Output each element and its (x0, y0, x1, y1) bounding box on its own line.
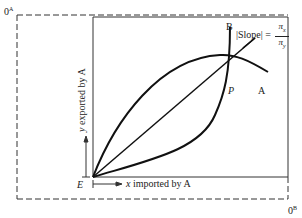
origin-B-label: 0B (288, 203, 297, 216)
slope-label: |Slope| = (236, 30, 271, 40)
slope-denominator: πy (278, 38, 285, 51)
offer-curve-A (93, 55, 268, 177)
y-axis-label: y exported by A (76, 68, 87, 132)
price-line (93, 38, 255, 177)
x-axis-label: x imported by A (126, 179, 191, 189)
slope-numerator: πx (278, 22, 285, 35)
curve-B-label: B (226, 22, 233, 32)
outer-dashed-box (17, 15, 288, 199)
inner-box (93, 17, 288, 177)
curve-A-label: A (258, 86, 265, 96)
y-axis-arrow (82, 136, 90, 177)
slope-fraction: πx πy (275, 22, 289, 51)
offer-curve-B (93, 27, 230, 177)
endowment-label: E (77, 180, 83, 190)
origin-A-label: 0A (4, 4, 13, 17)
equilibrium-point-label: P (228, 86, 234, 96)
x-axis-arrow (93, 180, 122, 188)
